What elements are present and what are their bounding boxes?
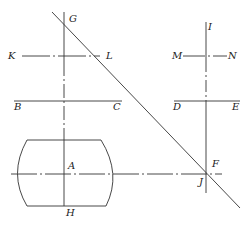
diagram-canvas: G K L B C I M N D E A H F J [0,0,248,228]
label-l: L [105,50,113,61]
label-a: A [67,160,75,171]
label-h: H [65,207,75,218]
construction-diagram: G K L B C I M N D E A H F J [0,0,248,228]
label-n: N [227,50,238,61]
label-e: E [231,101,240,112]
label-g: G [69,13,77,24]
label-m: M [171,50,183,61]
line-diagonal [52,12,240,208]
label-f: F [211,158,220,169]
barrel-outline [18,140,113,206]
label-d: D [172,101,181,112]
label-i: I [207,21,213,32]
label-b: B [13,101,21,112]
label-c: C [113,101,121,112]
label-j: J [197,176,204,187]
label-k: K [7,50,16,61]
